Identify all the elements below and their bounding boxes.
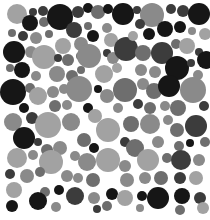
dot <box>73 173 83 183</box>
dot <box>28 150 38 160</box>
dot <box>51 202 61 212</box>
dot <box>157 21 173 37</box>
dot <box>55 38 71 54</box>
dot <box>66 76 92 102</box>
dot <box>6 64 14 72</box>
dot <box>3 41 25 63</box>
dot <box>91 5 105 19</box>
dot <box>147 187 169 209</box>
dot <box>93 205 101 213</box>
dot <box>119 160 131 172</box>
dot <box>62 54 74 66</box>
dot <box>177 5 189 17</box>
dot <box>185 115 207 137</box>
dot <box>174 188 190 204</box>
dot <box>86 173 100 187</box>
dot <box>18 31 28 41</box>
dot <box>29 192 47 210</box>
dot <box>95 65 113 83</box>
dot <box>171 150 191 170</box>
dot <box>135 64 147 76</box>
dot <box>149 66 161 78</box>
dot <box>31 71 41 81</box>
dot <box>20 169 34 183</box>
dot <box>100 89 114 103</box>
dot <box>197 202 209 214</box>
dot <box>112 3 134 25</box>
dot <box>35 112 61 138</box>
dot <box>187 59 195 67</box>
dot <box>14 62 30 78</box>
dot <box>72 6 84 18</box>
dot <box>87 30 99 42</box>
dot <box>34 138 42 146</box>
dot <box>136 204 144 212</box>
dot <box>77 133 91 147</box>
dot <box>54 185 64 195</box>
dot <box>102 201 112 211</box>
dot <box>38 6 48 16</box>
dot <box>89 143 99 153</box>
dot <box>160 101 170 111</box>
dot <box>54 54 62 62</box>
dot <box>35 167 45 177</box>
dot <box>117 190 133 206</box>
dot <box>103 4 113 14</box>
dot <box>179 38 195 54</box>
dot <box>102 23 112 33</box>
dot <box>139 172 151 184</box>
dot <box>154 171 168 185</box>
dot <box>47 86 59 98</box>
dot-plate <box>0 0 210 220</box>
dot <box>62 100 72 110</box>
dot <box>45 30 53 38</box>
dot <box>66 22 82 38</box>
dot <box>137 149 159 171</box>
dot <box>186 139 194 147</box>
dot <box>5 169 15 179</box>
dot <box>22 15 38 31</box>
dot <box>180 77 206 103</box>
dot <box>166 4 176 14</box>
dot <box>49 66 65 82</box>
dot <box>62 113 80 131</box>
dot <box>96 118 120 142</box>
dot <box>106 188 118 200</box>
dot <box>162 153 172 163</box>
dot <box>133 6 141 14</box>
dot <box>188 3 210 25</box>
dot <box>140 114 160 134</box>
dot <box>0 79 26 105</box>
dot <box>78 153 96 171</box>
dot <box>174 172 186 184</box>
dot <box>113 78 137 102</box>
dot <box>123 116 139 132</box>
dot <box>174 21 186 33</box>
dot <box>189 171 203 185</box>
dot <box>163 115 173 125</box>
dot <box>66 187 84 205</box>
dot <box>96 148 120 172</box>
dot <box>77 66 85 74</box>
dot <box>8 29 16 37</box>
dot <box>29 8 37 16</box>
dot <box>29 87 47 105</box>
dot <box>170 123 184 137</box>
dot <box>13 127 35 149</box>
dot <box>137 191 147 201</box>
dot <box>133 99 143 109</box>
dot <box>170 100 186 116</box>
dot <box>88 109 102 123</box>
dot <box>174 141 184 151</box>
dot <box>193 154 205 166</box>
dot <box>19 103 29 113</box>
dot <box>88 192 100 204</box>
dot <box>158 75 180 97</box>
dot <box>188 27 196 35</box>
dot <box>120 173 134 187</box>
dot <box>113 103 123 113</box>
dot <box>143 28 155 40</box>
dot <box>152 136 164 148</box>
dot <box>199 101 209 111</box>
dot <box>135 45 151 61</box>
